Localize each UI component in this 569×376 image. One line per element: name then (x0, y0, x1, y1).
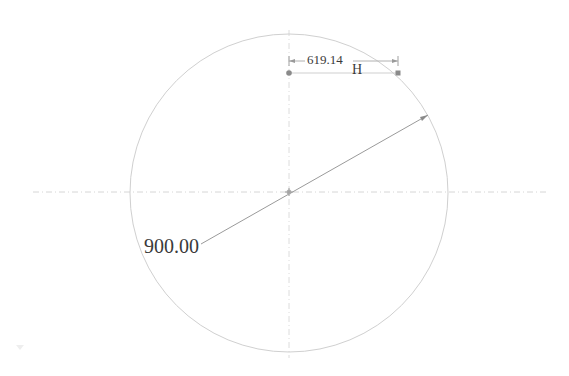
horizontal-dimension-value[interactable]: 619.14 (307, 52, 343, 67)
sketch-point-start[interactable] (286, 70, 292, 76)
center-point[interactable] (285, 188, 293, 196)
sketch-point-end[interactable] (396, 71, 401, 76)
diameter-dimension-label[interactable]: 900.00 (144, 235, 199, 257)
horizontal-dimension-suffix: H (352, 62, 362, 77)
origin-marker-icon (16, 345, 24, 350)
diameter-arrow-icon (420, 115, 428, 121)
diameter-dimension-line[interactable] (201, 115, 428, 244)
sketch-canvas[interactable]: 900.00 619.14 H (0, 0, 569, 376)
dimension-arrow-right-icon (392, 59, 398, 63)
dimension-arrow-left-icon (289, 59, 295, 63)
